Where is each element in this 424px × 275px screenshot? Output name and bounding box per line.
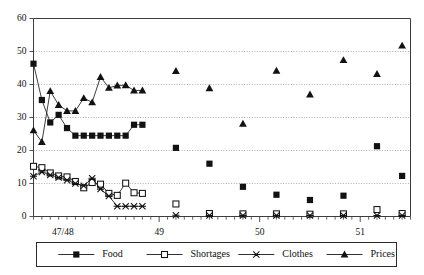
data-point-prices <box>273 67 281 74</box>
data-point-prices <box>239 120 247 127</box>
y-tick-label: 10 <box>17 178 27 188</box>
data-point-food <box>114 133 120 139</box>
data-point-prices <box>38 138 46 145</box>
data-point-food <box>47 119 53 125</box>
y-tick-label: 50 <box>17 46 27 56</box>
data-point-prices <box>46 87 54 94</box>
data-point-food <box>273 192 279 198</box>
data-point-prices <box>97 73 105 80</box>
data-point-food <box>64 125 70 131</box>
y-tick-label: 60 <box>17 13 27 23</box>
legend-marker-food <box>73 251 79 257</box>
data-point-food <box>106 133 112 139</box>
data-point-shortages <box>31 163 37 169</box>
data-point-clothes <box>130 203 137 209</box>
y-tick-label: 0 <box>22 211 27 221</box>
data-point-food <box>340 193 346 199</box>
data-point-food <box>206 161 212 167</box>
data-point-prices <box>80 94 88 101</box>
data-point-prices <box>306 91 314 98</box>
data-point-food <box>97 133 103 139</box>
data-point-prices <box>55 101 63 108</box>
data-point-prices <box>139 87 147 94</box>
data-point-prices <box>88 98 96 105</box>
chart-container: 0102030405060 47/48495051 FoodShortagesC… <box>0 0 424 275</box>
data-point-shortages <box>131 190 137 196</box>
data-point-food <box>39 97 45 103</box>
data-point-prices <box>206 84 214 91</box>
legend-label-food: Food <box>102 248 123 259</box>
y-axis-ticks <box>30 19 34 217</box>
series-line <box>34 172 143 206</box>
data-point-prices <box>398 42 406 49</box>
data-point-shortages <box>64 174 70 180</box>
x-tick-label: 49 <box>154 227 164 237</box>
legend-marker-clothes <box>253 251 260 257</box>
x-tick-label: 50 <box>255 227 265 237</box>
data-point-shortages <box>114 192 120 198</box>
data-point-food <box>81 133 87 139</box>
data-point-clothes <box>122 203 129 209</box>
line-chart: 0102030405060 47/48495051 FoodShortagesC… <box>0 0 424 275</box>
legend-label-prices: Prices <box>371 248 396 259</box>
data-point-prices <box>122 81 130 88</box>
data-point-shortages <box>173 201 179 207</box>
x-tick-label: 51 <box>355 227 365 237</box>
data-point-food <box>89 133 95 139</box>
x-tick-label: 47/48 <box>52 227 74 237</box>
data-point-food <box>131 122 137 128</box>
data-point-food <box>56 112 62 118</box>
data-point-food <box>307 197 313 203</box>
y-tick-label: 40 <box>17 79 27 89</box>
data-point-clothes <box>114 203 121 209</box>
series-clothes <box>30 169 406 219</box>
data-point-prices <box>340 56 348 63</box>
data-point-food <box>72 133 78 139</box>
y-axis-labels: 0102030405060 <box>17 13 27 221</box>
x-axis-ticks <box>34 217 411 223</box>
data-point-prices <box>130 87 138 94</box>
data-point-shortages <box>374 207 380 213</box>
chart-legend: FoodShortagesClothesPrices <box>37 243 397 267</box>
legend-label-clothes: Clothes <box>282 248 313 259</box>
data-point-food <box>240 184 246 190</box>
data-point-shortages <box>307 211 313 217</box>
data-point-prices <box>71 107 79 114</box>
data-point-prices <box>172 67 180 74</box>
series-prices <box>30 42 406 145</box>
y-tick-label: 20 <box>17 145 27 155</box>
data-point-food <box>123 133 129 139</box>
data-series <box>30 42 406 219</box>
legend-label-shortages: Shortages <box>191 248 231 259</box>
y-tick-label: 30 <box>17 112 27 122</box>
legend-marker-shortages <box>162 252 168 258</box>
series-shortages <box>31 163 406 217</box>
data-point-clothes <box>139 203 146 209</box>
data-point-food <box>374 143 380 149</box>
data-point-shortages <box>123 180 129 186</box>
data-point-food <box>139 122 145 128</box>
data-point-prices <box>373 70 381 77</box>
data-point-food <box>399 173 405 179</box>
data-point-prices <box>30 126 38 133</box>
x-axis-labels: 47/48495051 <box>52 227 365 237</box>
data-point-food <box>30 61 36 67</box>
series-food <box>30 61 405 203</box>
data-point-food <box>173 145 179 151</box>
data-point-prices <box>63 107 71 114</box>
data-point-shortages <box>139 190 145 196</box>
